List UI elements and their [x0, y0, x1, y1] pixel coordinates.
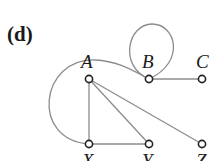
node-x [85, 140, 92, 147]
node-a [85, 75, 92, 82]
graph-diagram: (d) A B C X Y Z [0, 0, 219, 161]
node-b [145, 75, 152, 82]
node-y [145, 140, 152, 147]
label-b: B [142, 51, 154, 72]
edge-a-z [89, 79, 202, 144]
label-x: X [81, 150, 95, 161]
label-a: A [79, 51, 93, 72]
node-c [198, 75, 205, 82]
panel-label: (d) [7, 22, 33, 46]
edge-x-b-curved [49, 60, 149, 144]
edge-a-y [89, 79, 149, 144]
label-c: C [196, 51, 209, 72]
edges [49, 24, 202, 144]
label-y: Y [142, 150, 155, 161]
label-z: Z [196, 150, 207, 161]
node-z [198, 140, 205, 147]
